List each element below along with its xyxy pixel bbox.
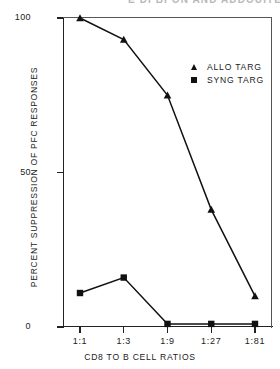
series-allo-targ xyxy=(76,14,259,299)
y-tick-100 xyxy=(57,17,63,18)
x-axis-title: CD8 TO B CELL RATIOS xyxy=(0,352,280,362)
x-tick-label-1-9: 1:9 xyxy=(160,336,175,346)
x-tick-1-3 xyxy=(123,327,124,333)
square-marker-icon xyxy=(186,77,202,83)
legend-item-allo-targ: ALLO TARG xyxy=(186,60,264,73)
x-tick-label-1-27: 1:27 xyxy=(201,336,221,346)
x-tick-1-81 xyxy=(254,327,255,333)
y-tick-0 xyxy=(57,326,63,327)
legend-label-syng-targ: SYNG TARG xyxy=(207,75,264,85)
series-syng-targ xyxy=(77,274,258,327)
x-tick-1-27 xyxy=(211,327,212,333)
x-tick-1-9 xyxy=(167,327,168,333)
x-tick-label-1-3: 1:3 xyxy=(116,336,131,346)
x-tick-label-1-81: 1:81 xyxy=(245,336,265,346)
chart-figure: 050100 ALLO TARG SYNG TARG CD8 TO B CELL… xyxy=(0,0,280,369)
y-tick-50 xyxy=(57,172,63,173)
legend-item-syng-targ: SYNG TARG xyxy=(186,73,264,86)
x-tick-1-1 xyxy=(79,327,80,333)
legend-label-allo-targ: ALLO TARG xyxy=(207,62,262,72)
data-series-layer xyxy=(0,0,280,369)
chart-legend: ALLO TARG SYNG TARG xyxy=(186,60,264,86)
y-axis-title: PERCENT SUPPRESSION OF PFC RESPONSES xyxy=(29,57,39,297)
triangle-marker-icon xyxy=(186,64,202,70)
x-tick-label-1-1: 1:1 xyxy=(73,336,88,346)
